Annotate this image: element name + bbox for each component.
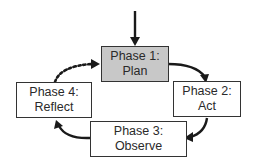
phase-2-act-box: Phase 2: Act: [173, 81, 241, 117]
phase-1-label: Plan: [122, 64, 147, 79]
phase-4-label: Reflect: [35, 100, 74, 115]
arrow-reflect-to-plan-dotted: [55, 59, 100, 82]
phase-4-reflect-box: Phase 4: Reflect: [16, 82, 92, 118]
phase-2-label: Act: [198, 99, 216, 114]
phase-4-title: Phase 4:: [29, 85, 78, 100]
phase-3-label: Observe: [115, 139, 162, 154]
arrow-act-to-observe: [184, 118, 207, 142]
phase-1-title: Phase 1:: [110, 49, 159, 64]
entry-arrow: [130, 11, 140, 46]
phase-1-plan-box: Phase 1: Plan: [101, 46, 169, 82]
arrow-observe-to-reflect: [54, 120, 90, 138]
phase-2-title: Phase 2:: [182, 84, 231, 99]
phase-3-title: Phase 3:: [114, 124, 163, 139]
action-research-cycle-diagram: Phase 1: Plan Phase 2: Act Phase 3: Obse…: [0, 0, 256, 167]
phase-3-observe-box: Phase 3: Observe: [90, 121, 187, 157]
